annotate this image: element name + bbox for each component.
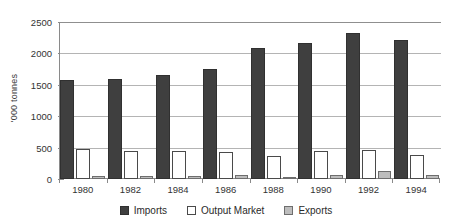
bar-output-1992 xyxy=(362,150,376,179)
bar-group-1980 xyxy=(60,22,105,179)
imports-swatch xyxy=(120,206,129,215)
y-tick-label: 1500 xyxy=(8,79,52,90)
bar-group-1994 xyxy=(394,22,439,179)
bar-group-1988 xyxy=(251,22,296,179)
bar-output-1980 xyxy=(76,149,90,179)
bar-output-1982 xyxy=(124,151,138,179)
output-market-swatch xyxy=(187,206,196,215)
y-tick-label: 500 xyxy=(8,142,52,153)
bar-exports-1992 xyxy=(378,171,391,179)
bar-imports-1986 xyxy=(203,69,217,179)
bar-groups xyxy=(59,22,440,179)
x-tick-label: 1992 xyxy=(345,184,393,195)
legend-item-output-market[interactable]: Output Market xyxy=(187,205,264,216)
x-tick-mark xyxy=(439,179,440,183)
x-tick-mark xyxy=(345,179,346,183)
bar-group-1984 xyxy=(156,22,201,179)
x-tick-mark xyxy=(297,179,298,183)
exports-swatch xyxy=(284,206,293,215)
y-axis-tick-labels: 05001000150020002500 xyxy=(6,22,52,179)
bar-imports-1988 xyxy=(251,48,265,179)
legend-label: Output Market xyxy=(201,205,264,216)
x-tick-mark xyxy=(202,179,203,183)
bar-chart: '000 tonnes 05001000150020002500 1980198… xyxy=(0,0,452,224)
y-tick-label: 2500 xyxy=(8,17,52,28)
x-tick-mark xyxy=(154,179,155,183)
bar-output-1988 xyxy=(267,156,281,179)
x-tick-label: 1990 xyxy=(297,184,345,195)
x-tick-mark xyxy=(250,179,251,183)
bar-output-1984 xyxy=(172,151,186,179)
bar-imports-1980 xyxy=(60,80,74,179)
x-tick-mark xyxy=(107,179,108,183)
x-tick-label: 1984 xyxy=(154,184,202,195)
y-tick-label: 1000 xyxy=(8,111,52,122)
x-tick-mark xyxy=(59,179,60,183)
bar-output-1994 xyxy=(410,155,424,179)
bar-group-1986 xyxy=(203,22,248,179)
x-tick-label: 1980 xyxy=(59,184,107,195)
bar-group-1992 xyxy=(346,22,391,179)
x-tick-mark xyxy=(392,179,393,183)
bar-imports-1992 xyxy=(346,33,360,179)
x-tick-label: 1986 xyxy=(202,184,250,195)
legend-item-exports[interactable]: Exports xyxy=(284,205,332,216)
legend-label: Imports xyxy=(134,205,167,216)
legend-item-imports[interactable]: Imports xyxy=(120,205,167,216)
x-tick-label: 1982 xyxy=(106,184,154,195)
bar-group-1990 xyxy=(298,22,343,179)
bar-output-1990 xyxy=(314,151,328,179)
bar-imports-1984 xyxy=(156,75,170,179)
bar-imports-1982 xyxy=(108,79,122,179)
bar-output-1986 xyxy=(219,152,233,179)
bar-imports-1990 xyxy=(298,43,312,179)
bar-imports-1994 xyxy=(394,40,408,179)
y-tick-label: 0 xyxy=(8,174,52,185)
x-tick-label: 1988 xyxy=(249,184,297,195)
legend-label: Exports xyxy=(298,205,332,216)
x-axis-tick-labels: 19801982198419861988199019921994 xyxy=(59,184,440,198)
y-tick-label: 2000 xyxy=(8,48,52,59)
x-tick-label: 1994 xyxy=(392,184,440,195)
chart-legend: ImportsOutput MarketExports xyxy=(0,202,452,218)
bar-group-1982 xyxy=(108,22,153,179)
